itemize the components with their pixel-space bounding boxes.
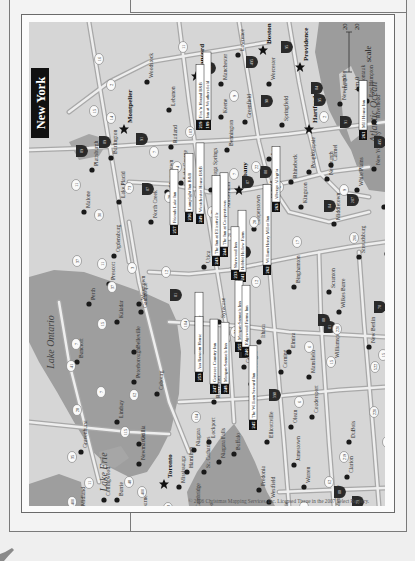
city-label: Ellicottville xyxy=(268,411,274,438)
svg-text:255: 255 xyxy=(237,343,242,351)
svg-text:11: 11 xyxy=(100,262,105,266)
route-marker-icon: 37 xyxy=(108,282,117,293)
city-label: Carmel xyxy=(332,144,338,161)
route-marker-icon: 28 xyxy=(250,217,259,228)
city-label: Ogdensburg xyxy=(115,225,121,252)
inn-label[interactable]: 257Friends Lake Inn xyxy=(170,169,178,235)
svg-text:11: 11 xyxy=(181,45,186,49)
map-title-text: New York xyxy=(34,77,48,130)
route-marker-icon: 9 xyxy=(230,91,239,102)
svg-text:41: 41 xyxy=(69,364,74,368)
inn-name: William Henry Miller Inn xyxy=(265,215,270,263)
route-marker-icon: 14 xyxy=(107,113,116,124)
svg-text:253: 253 xyxy=(197,373,202,381)
city-label: Bennington xyxy=(228,120,234,146)
route-marker-icon: 400 xyxy=(68,497,77,507)
svg-text:89: 89 xyxy=(79,149,84,153)
inn-label[interactable]: 261Mill House Inn xyxy=(359,81,367,140)
svg-text:189: 189 xyxy=(205,121,210,129)
svg-text:62: 62 xyxy=(132,393,137,397)
route-marker-icon: 12 xyxy=(162,267,171,278)
city-label: Barrie xyxy=(118,482,124,496)
route-marker-icon: 48 xyxy=(125,477,134,488)
city-label: Mansfield xyxy=(310,350,316,373)
new-york-map[interactable]: Lake OntarioLake ErieAtlantic Ocean Burl… xyxy=(29,22,385,506)
svg-text:220: 220 xyxy=(372,408,377,415)
route-marker-icon: 7 xyxy=(150,147,159,158)
svg-text:2: 2 xyxy=(322,116,327,118)
svg-text:249: 249 xyxy=(198,215,203,223)
svg-text:115: 115 xyxy=(123,428,128,435)
city-label: Perth xyxy=(90,288,96,300)
city-label: Peterborough xyxy=(135,348,141,378)
inn-label[interactable]: 219Fox 'n Hound B&B xyxy=(196,64,204,130)
city-label: Syracuse xyxy=(220,297,226,318)
column-divider-bottom xyxy=(130,512,131,532)
city-label: Mississauga xyxy=(180,455,186,483)
route-marker-icon: 2 xyxy=(320,112,329,123)
route-marker-icon: 15 xyxy=(379,350,386,361)
city-label: Kingston xyxy=(302,182,308,203)
route-marker-icon: 7 xyxy=(230,169,239,180)
route-marker-icon: 62 xyxy=(325,477,334,488)
inn-label[interactable]: 248Morgan-Samuels Inn xyxy=(221,322,229,394)
svg-text:87: 87 xyxy=(245,180,250,184)
route-marker-icon: 206 xyxy=(350,233,359,244)
city-label: Plattsburgh xyxy=(93,140,99,166)
svg-text:522: 522 xyxy=(373,364,378,371)
inn-label[interactable]: 233Sherwood Inn xyxy=(231,227,239,280)
city-label: Burlington xyxy=(112,130,118,154)
inn-label[interactable]: 253Asa Ransom House xyxy=(195,316,203,382)
svg-text:245: 245 xyxy=(251,421,256,429)
city-label: Westfield xyxy=(270,477,276,498)
inn-label[interactable]: 244The Inn at Cooperstown xyxy=(220,173,228,257)
city-label: Niagara xyxy=(195,428,201,446)
interstate-shield-icon: 89 xyxy=(99,136,111,148)
city-label: Niagara Falls xyxy=(220,428,226,458)
route-marker-icon: 22 xyxy=(252,162,261,173)
svg-text:219: 219 xyxy=(198,121,203,129)
interstate-shield-icon: 84 xyxy=(311,82,323,94)
route-marker-icon: 15 xyxy=(90,106,99,117)
city-label: Rhinebeck xyxy=(292,154,298,178)
inn-name: Sherwood Inn xyxy=(233,241,238,268)
svg-text:104: 104 xyxy=(183,320,188,327)
route-marker-icon: 104 xyxy=(192,412,201,423)
interstate-shield-icon: 95 xyxy=(314,94,326,106)
route-marker-icon: 103 xyxy=(186,127,195,138)
inn-label[interactable]: 245The William Seward Inn xyxy=(249,346,257,430)
svg-text:78: 78 xyxy=(377,305,382,309)
city-label: Collingwood xyxy=(105,467,111,496)
route-marker-icon: 104 xyxy=(181,319,190,330)
inn-label[interactable]: 263Albergo Allegria xyxy=(272,146,280,212)
inn-label[interactable]: 247Genesee Country Inn xyxy=(210,319,218,394)
interstate-shield-icon: 78 xyxy=(374,301,385,313)
svg-text:2: 2 xyxy=(109,84,114,86)
city-label: North Creek xyxy=(152,190,158,218)
city-label: Manchester xyxy=(222,54,228,80)
scale-km: 20 km xyxy=(353,22,360,30)
city-label: Wilkes Barre xyxy=(340,278,346,308)
inn-label[interactable]: 236Lamplight Inn B&B xyxy=(185,153,193,222)
inn-label[interactable]: 262William Henry Miller Inn xyxy=(263,185,271,275)
svg-text:390: 390 xyxy=(272,392,277,398)
svg-text:495: 495 xyxy=(249,59,254,65)
route-marker-icon: 7 xyxy=(72,339,81,350)
route-marker-icon: 15 xyxy=(327,357,336,368)
interstate-shield-icon: 87 xyxy=(242,176,254,188)
city-label: Worcester xyxy=(270,57,276,80)
inn-label[interactable]: 249Westchester House B&B xyxy=(196,143,204,224)
interstate-shield-icon: 81 xyxy=(170,289,182,301)
scale-mi-zero: mi 0 xyxy=(341,78,348,90)
svg-text:12: 12 xyxy=(254,280,259,284)
scale-label: scale xyxy=(364,46,373,62)
inn-label[interactable]: 243The Inn at Ellicottville xyxy=(212,176,220,266)
interstate-shield-icon: 495 xyxy=(246,56,258,68)
interstate-shield-icon: 80 xyxy=(318,314,330,326)
city-label: Lockport xyxy=(210,417,216,438)
svg-text:495: 495 xyxy=(377,139,382,145)
route-marker-icon: 62 xyxy=(130,390,139,401)
city-label: Newmarket xyxy=(140,433,146,460)
route-marker-icon: 2 xyxy=(107,80,116,91)
svg-text:88: 88 xyxy=(263,170,268,174)
